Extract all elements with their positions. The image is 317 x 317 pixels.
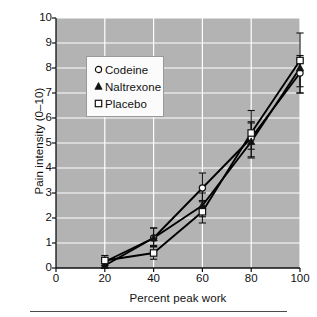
open-circle-icon — [92, 64, 105, 75]
data-point-open-circle — [199, 185, 205, 191]
legend-item-naltrexone: Naltrexone — [92, 78, 158, 95]
plot-canvas — [0, 0, 317, 317]
legend-label: Placebo — [105, 98, 147, 110]
legend: CodeineNaltrexonePlacebo — [86, 56, 164, 117]
bottom-rule — [30, 311, 287, 312]
data-point-open-square — [248, 130, 254, 136]
data-point-open-square — [150, 250, 156, 256]
legend-item-codeine: Codeine — [92, 61, 158, 78]
filled-triangle-glyph — [95, 83, 102, 90]
x-axis-tick-label: 100 — [280, 273, 317, 285]
data-point-open-square — [297, 57, 303, 63]
open-circle-glyph — [95, 66, 101, 72]
x-axis-tick-label: 80 — [231, 273, 271, 285]
legend-item-placebo: Placebo — [92, 95, 158, 112]
x-axis-tick-label: 20 — [85, 273, 125, 285]
x-axis-tick-label: 60 — [182, 273, 222, 285]
legend-label: Codeine — [105, 64, 148, 76]
figure: Pain intensity (0–10) 012345678910 02040… — [0, 0, 317, 317]
filled-triangle-icon — [92, 81, 105, 92]
x-axis-tick-label: 40 — [134, 273, 174, 285]
open-square-icon — [92, 98, 105, 109]
open-square-glyph — [95, 100, 101, 106]
data-point-open-square — [199, 209, 205, 215]
x-axis-tick-labels: 020406080100 — [0, 273, 317, 291]
x-axis-tick-label: 0 — [36, 273, 76, 285]
legend-label: Naltrexone — [105, 81, 161, 93]
x-axis-label: Percent peak work — [56, 292, 300, 304]
data-point-open-square — [102, 257, 108, 263]
